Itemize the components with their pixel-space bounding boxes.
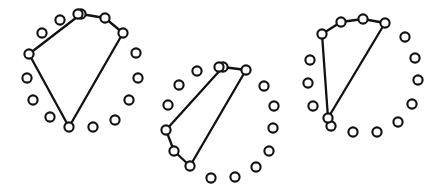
node-r3: [410, 53, 419, 62]
node-r12: [305, 55, 314, 64]
node-l9: [45, 112, 54, 121]
node-m5: [264, 146, 273, 155]
diagram-middle: [161, 62, 278, 182]
node-r0: [358, 14, 367, 23]
node-l14: [55, 15, 64, 24]
node-m11: [161, 125, 170, 134]
node-l10: [28, 95, 37, 104]
node-m12: [163, 100, 172, 109]
node-l11: [22, 73, 31, 82]
node-r15: [323, 113, 332, 122]
node-m14: [192, 66, 201, 75]
node-m6: [251, 162, 260, 171]
node-r1: [380, 18, 389, 27]
node-m3: [269, 101, 278, 110]
node-r10: [308, 101, 317, 110]
node-m1: [241, 65, 250, 74]
node-r6: [393, 117, 402, 126]
node-l12: [24, 49, 33, 58]
node-l2: [118, 28, 127, 37]
node-r5: [407, 99, 416, 108]
node-l7: [88, 122, 97, 131]
node-m13: [174, 80, 183, 89]
node-m7: [230, 172, 239, 181]
node-l5: [124, 95, 133, 104]
node-l6: [110, 115, 119, 124]
node-r4: [413, 75, 422, 84]
node-l8: [64, 122, 73, 131]
node-l1: [100, 13, 109, 22]
node-r8: [348, 127, 357, 136]
node-l4: [133, 73, 142, 82]
node-r13: [317, 29, 326, 38]
figure-container: [0, 0, 447, 195]
node-m10: [169, 146, 178, 155]
node-m8: [206, 173, 215, 182]
node-r7: [372, 127, 381, 136]
node-l13: [37, 28, 46, 37]
diagram-left: [22, 9, 142, 131]
node-r2: [400, 32, 409, 41]
node-m9: [185, 161, 194, 170]
node-m15: [214, 62, 223, 71]
node-m4: [268, 123, 277, 132]
node-m2: [259, 81, 268, 90]
node-r11: [303, 78, 312, 87]
node-r14: [336, 17, 345, 26]
node-l15: [73, 9, 82, 18]
diagram-right-polygon: [322, 19, 385, 118]
figure-svg: [0, 0, 447, 195]
node-l3: [131, 48, 140, 57]
diagram-right: [303, 14, 422, 136]
